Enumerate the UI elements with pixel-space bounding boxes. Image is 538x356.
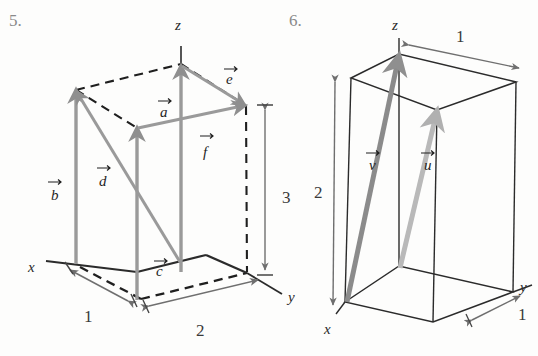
fig6-vertical-right-edge	[513, 82, 516, 292]
fig6-bottom-face	[345, 266, 513, 322]
fig6-vector-v	[347, 60, 398, 302]
fig6-axis-label-y: y	[518, 279, 527, 295]
fig6-vector-label-v-text: v	[369, 157, 376, 173]
fig6-axis-label-x: x	[323, 321, 331, 337]
fig6-dim-2-line	[333, 82, 335, 305]
fig6-vector-label-u-text: u	[424, 157, 432, 173]
fig6-axis-label-z: z	[391, 17, 398, 33]
fig6-dim-1-top-line	[409, 45, 519, 68]
fig6-vectors	[347, 60, 436, 302]
fig6-box-edges	[336, 38, 532, 322]
fig6-dimensions	[333, 45, 520, 327]
figure-6-canvas: 6.	[0, 0, 538, 356]
fig6-dim-label-1-depth: 1	[518, 305, 527, 324]
fig6-dim-1-depth-line	[472, 296, 520, 320]
fig6-dim-label-2: 2	[314, 183, 323, 202]
figure-page: 5.	[0, 0, 538, 356]
problem-number-6: 6.	[289, 11, 302, 30]
fig6-x-axis	[336, 302, 345, 314]
fig6-vertical-left-edge	[345, 78, 351, 302]
fig6-vector-u	[400, 115, 436, 268]
fig6-dim-label-1-top: 1	[456, 27, 465, 46]
fig6-dim-1-depth-tick	[466, 314, 472, 327]
fig6-vector-label-v-overarrow	[366, 151, 379, 156]
fig6-vertical-front-edge	[433, 110, 437, 322]
